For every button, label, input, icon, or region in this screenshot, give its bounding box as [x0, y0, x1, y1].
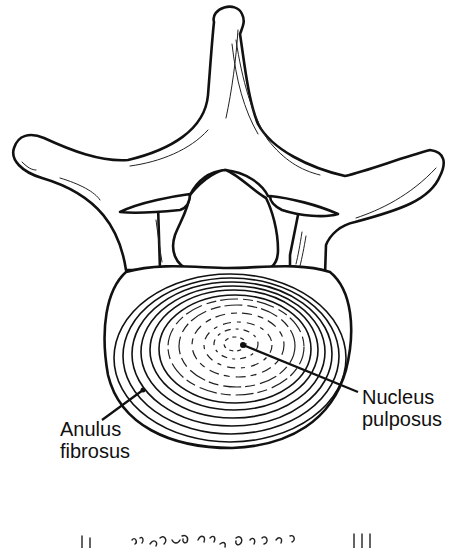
- nucleus-label-line2: pulposus: [362, 408, 442, 430]
- anulus-label-line2: fibrosus: [60, 440, 130, 462]
- vertebra-illustration: [0, 0, 452, 548]
- nucleus-pulposus-label: Nucleus pulposus: [362, 386, 442, 430]
- anulus-fibrosus-label: Anulus fibrosus: [60, 418, 130, 462]
- anulus-label-line1: Anulus: [60, 418, 130, 440]
- nucleus-label-line1: Nucleus: [362, 386, 442, 408]
- vertebra-diagram: Nucleus pulposus Anulus fibrosus: [0, 0, 452, 548]
- partial-figure-fragment: [82, 534, 370, 548]
